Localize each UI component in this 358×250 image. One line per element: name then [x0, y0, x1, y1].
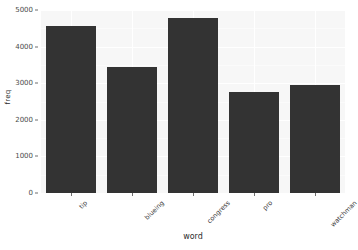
y-tick-mark	[35, 46, 38, 47]
x-tick-mark	[71, 193, 72, 196]
y-tick-mark	[35, 83, 38, 84]
bar	[290, 85, 340, 193]
y-axis-title-label: freq	[4, 89, 12, 104]
y-tick-mark	[35, 156, 38, 157]
plot-panel	[41, 10, 345, 193]
x-tick-mark	[254, 193, 255, 196]
y-tick-mark	[35, 10, 38, 11]
x-axis-title: word	[41, 232, 345, 241]
y-tick-label: 1000	[15, 152, 33, 160]
bar	[46, 26, 96, 193]
x-tick-label: congress	[206, 199, 232, 225]
x-tick-mark	[315, 193, 316, 196]
bar	[168, 18, 218, 193]
y-tick-mark	[35, 119, 38, 120]
y-tick-label: 5000	[15, 6, 33, 14]
x-tick-label: pro	[261, 199, 274, 212]
x-tick-label: blueing	[143, 199, 166, 222]
x-tick-mark	[193, 193, 194, 196]
x-tick-mark	[132, 193, 133, 196]
y-tick-label: 2000	[15, 116, 33, 124]
y-tick-label: 4000	[15, 43, 33, 51]
y-axis-title: freq	[2, 0, 14, 193]
y-tick-label: 3000	[15, 79, 33, 87]
x-tick-label: tip	[78, 199, 90, 211]
bar	[229, 92, 279, 193]
x-axis-ticks: tipblueingcongressprowatchman	[0, 193, 351, 250]
x-tick-label: watchman	[329, 199, 358, 229]
bar	[107, 67, 157, 193]
